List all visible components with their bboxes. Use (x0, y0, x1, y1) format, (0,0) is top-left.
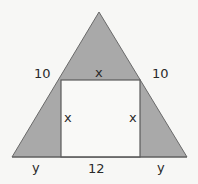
label-right-upper-side: 10 (152, 66, 169, 81)
label-left-upper-side: 10 (34, 66, 51, 81)
label-square-right: x (129, 110, 137, 125)
label-square-top: x (95, 65, 103, 80)
label-base-right: y (157, 160, 165, 175)
label-base-left: y (32, 160, 40, 175)
label-square-bottom: 12 (88, 161, 105, 176)
geometry-diagram: 10 x 10 x x y 12 y (0, 0, 198, 184)
label-square-left: x (64, 110, 72, 125)
diagram-svg: 10 x 10 x x y 12 y (0, 0, 198, 184)
